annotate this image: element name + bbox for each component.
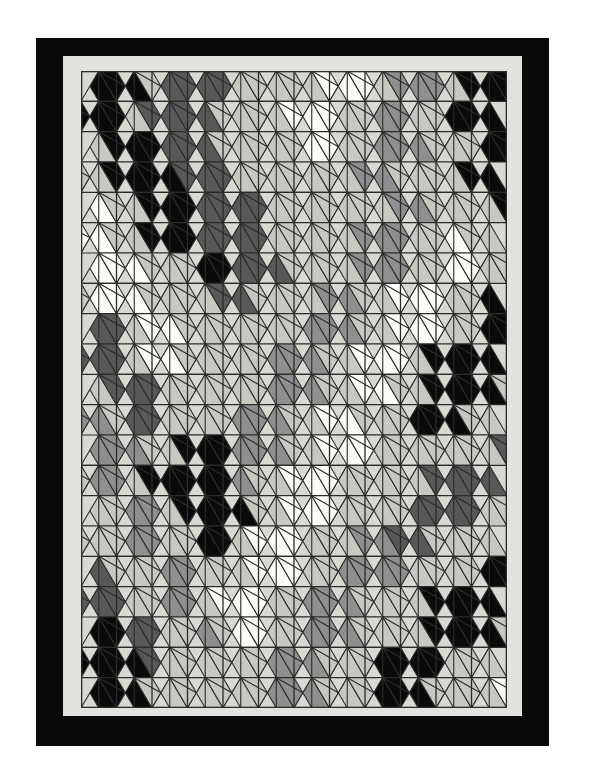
tessellation-pattern-plate <box>81 71 507 708</box>
artwork-root <box>0 0 594 784</box>
tessellation-svg <box>81 71 507 708</box>
